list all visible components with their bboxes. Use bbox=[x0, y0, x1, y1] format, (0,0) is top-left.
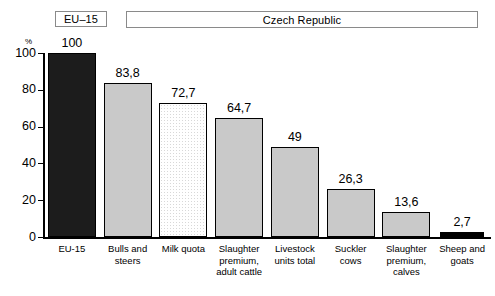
plot-area: 10083,872,764,74926,313,62,7 bbox=[44, 53, 490, 237]
bar bbox=[48, 53, 96, 237]
bar bbox=[215, 118, 263, 237]
eu-15-header-box: EU–15 bbox=[55, 11, 107, 27]
y-tick-label-60: 60 bbox=[2, 120, 36, 133]
czech-republic-header-box: Czech Republic bbox=[126, 11, 478, 28]
czech-republic-header-label: Czech Republic bbox=[263, 14, 341, 26]
bar-group: 100 bbox=[48, 53, 96, 237]
y-tick-label-80: 80 bbox=[2, 83, 36, 96]
category-label-line: EU-15 bbox=[44, 243, 100, 255]
category-label-line: units total bbox=[267, 255, 323, 267]
bar-value-label: 72,7 bbox=[147, 87, 219, 100]
bar-value-label: 49 bbox=[259, 131, 331, 144]
category-label: Milk quota bbox=[156, 243, 212, 255]
bar-group: 49 bbox=[271, 53, 319, 237]
x-axis-line bbox=[43, 237, 491, 239]
category-label: Bulls andsteers bbox=[100, 243, 156, 266]
category-label-line: adult cattle bbox=[211, 266, 267, 278]
category-label: Livestockunits total bbox=[267, 243, 323, 266]
category-label-line: steers bbox=[100, 255, 156, 267]
eu-15-header-label: EU–15 bbox=[64, 13, 98, 25]
y-tick-mark-40 bbox=[38, 163, 43, 164]
bar bbox=[327, 189, 375, 237]
bar-group: 26,3 bbox=[327, 53, 375, 237]
y-tick-mark-0 bbox=[38, 237, 43, 238]
category-label: Slaughterpremium,adult cattle bbox=[211, 243, 267, 278]
bar-value-label: 2,7 bbox=[428, 216, 495, 229]
category-label: Sucklercows bbox=[323, 243, 379, 266]
y-tick-label-100: 100 bbox=[2, 47, 36, 60]
bar-value-label: 100 bbox=[36, 37, 108, 50]
y-axis-tick-labels: 100806040200 bbox=[0, 0, 36, 296]
bar-group: 64,7 bbox=[215, 53, 263, 237]
bar-group: 2,7 bbox=[440, 53, 484, 237]
bar bbox=[104, 83, 152, 237]
category-label: EU-15 bbox=[44, 243, 100, 255]
bar-value-label: 64,7 bbox=[203, 102, 275, 115]
category-label-line: Sheep and bbox=[434, 243, 490, 255]
bar bbox=[271, 147, 319, 237]
bar-value-label: 83,8 bbox=[92, 67, 164, 80]
category-label-line: Slaughter bbox=[379, 243, 435, 255]
y-tick-label-0: 0 bbox=[2, 231, 36, 244]
bar-group: 83,8 bbox=[104, 53, 152, 237]
category-label-line: calves bbox=[379, 266, 435, 278]
y-tick-label-20: 20 bbox=[2, 194, 36, 207]
y-tick-mark-80 bbox=[38, 90, 43, 91]
category-label-line: premium, bbox=[211, 255, 267, 267]
bar-value-label: 26,3 bbox=[315, 173, 387, 186]
y-tick-label-40: 40 bbox=[2, 157, 36, 170]
bar bbox=[159, 103, 207, 237]
category-label-line: Slaughter bbox=[211, 243, 267, 255]
bar-group: 72,7 bbox=[159, 53, 207, 237]
y-tick-mark-20 bbox=[38, 200, 43, 201]
category-label: Sheep andgoats bbox=[434, 243, 490, 266]
category-label-line: goats bbox=[434, 255, 490, 267]
bar-chart: EU–15 Czech Republic % 100806040200 1008… bbox=[0, 0, 495, 296]
category-label-line: premium, bbox=[379, 255, 435, 267]
x-axis-category-labels: EU-15Bulls andsteersMilk quotaSlaughterp… bbox=[44, 243, 490, 293]
category-label-line: Suckler bbox=[323, 243, 379, 255]
y-tick-mark-100 bbox=[38, 53, 43, 54]
bar-group: 13,6 bbox=[382, 53, 430, 237]
category-label-line: cows bbox=[323, 255, 379, 267]
bar bbox=[382, 212, 430, 237]
category-label: Slaughterpremium,calves bbox=[379, 243, 435, 278]
category-label-line: Livestock bbox=[267, 243, 323, 255]
bar bbox=[440, 232, 484, 237]
bar-value-label: 13,6 bbox=[370, 196, 442, 209]
category-label-line: Milk quota bbox=[156, 243, 212, 255]
category-label-line: Bulls and bbox=[100, 243, 156, 255]
y-tick-mark-60 bbox=[38, 127, 43, 128]
